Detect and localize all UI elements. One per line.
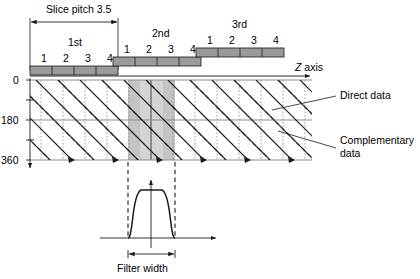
rotation-group-label-1st: 1st bbox=[68, 37, 82, 48]
detector-label-1st-4: 4 bbox=[107, 53, 113, 64]
detector-label-3rd-1: 1 bbox=[207, 35, 213, 46]
detector-label-3rd-3: 3 bbox=[251, 35, 257, 46]
filter-profile-plot bbox=[100, 180, 216, 248]
slice-pitch-label: Slice pitch 3.5 bbox=[46, 4, 111, 15]
detector-label-2nd-2: 2 bbox=[146, 44, 152, 55]
filter-width-dimension bbox=[128, 250, 175, 258]
ct-slice-pitch-figure: Slice pitch 3.5 1st 2nd 3rd 1 2 3 4 1 2 … bbox=[0, 0, 420, 279]
detector-label-2nd-3: 3 bbox=[168, 44, 174, 55]
detector-label-1st-1: 1 bbox=[41, 53, 47, 64]
rotation-group-label-3rd: 3rd bbox=[232, 19, 247, 30]
y-tick-label-360: 360 bbox=[1, 155, 19, 166]
detector-bar-group-3rd bbox=[196, 48, 284, 57]
detector-bar-group-2nd bbox=[113, 57, 201, 66]
direct-data-label: Direct data bbox=[340, 90, 391, 101]
filter-width-label: Filter width bbox=[117, 263, 168, 274]
z-axis-label: Z axis bbox=[295, 62, 323, 73]
y-tick-label-180: 180 bbox=[1, 115, 19, 126]
y-tick-label-0: 0 bbox=[13, 75, 19, 86]
complementary-data-label-line1: Complementary bbox=[340, 135, 414, 146]
callout-leader-lines bbox=[272, 96, 336, 148]
detector-label-1st-3: 3 bbox=[85, 53, 91, 64]
detector-label-3rd-2: 2 bbox=[229, 35, 235, 46]
detector-label-2nd-1: 1 bbox=[124, 44, 130, 55]
detector-label-1st-2: 2 bbox=[63, 53, 69, 64]
detector-bar-group-1st bbox=[30, 66, 118, 75]
detector-label-2nd-4: 4 bbox=[190, 44, 196, 55]
y-axis bbox=[26, 78, 34, 168]
detector-label-3rd-4: 4 bbox=[273, 35, 279, 46]
complementary-data-label-line2: data bbox=[340, 148, 360, 159]
rotation-group-label-2nd: 2nd bbox=[152, 28, 170, 39]
z-axis-word: axis bbox=[301, 61, 323, 73]
